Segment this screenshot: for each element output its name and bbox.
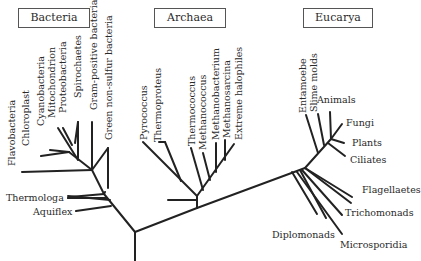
label-animals: Animals [317, 95, 356, 105]
label-entamoebe: Entamoebe [298, 58, 308, 113]
label-fungi: Fungi [346, 118, 374, 128]
label-diplomonads: Diplomonads [272, 230, 335, 240]
label-methanobacterium: Methanobacterium [211, 48, 221, 140]
label-thermologa: Thermologa [6, 193, 64, 203]
label-proteobacteria: Proteobacteria [58, 41, 68, 113]
label-gram-positive: Gram-positive bacteria [89, 0, 99, 110]
label-methanococcus: Methanococcus [198, 75, 208, 150]
label-green-non-sulfur: Green non-sulfur bacteria [104, 15, 114, 140]
archaea-branches [143, 140, 234, 208]
label-spirochaetes: Spirochaetes [73, 35, 83, 98]
label-pyrococcus: Pyrococcus [139, 85, 149, 140]
label-cyanobacteria: Cyanobacteria [36, 56, 46, 126]
aquiflex-branch [76, 206, 111, 211]
bacteria-branches [22, 122, 110, 200]
label-extreme-halophiles: Extreme halophiles [234, 47, 244, 140]
eucarya-domain-box: Eucarya [303, 8, 373, 28]
archaea-domain-box: Archaea [154, 8, 226, 28]
label-methanosarcina: Methanosarcina [222, 60, 232, 138]
label-mitochondrion: Mitochondrion [47, 47, 57, 118]
bacteria-domain-box: Bacteria [18, 8, 90, 28]
label-chloroplast: Chloroplast [21, 90, 31, 146]
eucarya-branches [292, 112, 352, 234]
label-ciliates: Ciliates [350, 155, 386, 165]
label-flavobacteria: Flavobacteria [7, 100, 17, 166]
label-microsporidia: Microsporidia [340, 240, 407, 250]
archaea-trunk [135, 208, 197, 232]
label-aquiflex: Aquiflex [33, 207, 72, 217]
label-flagellaetes: Flagellaetes [362, 185, 421, 195]
label-plants: Plants [352, 138, 382, 148]
label-thermoproteus: Thermoproteus [153, 68, 163, 142]
label-trichomonads: Trichomonads [345, 208, 414, 218]
label-thermococcus: Thermococcus [187, 76, 197, 146]
